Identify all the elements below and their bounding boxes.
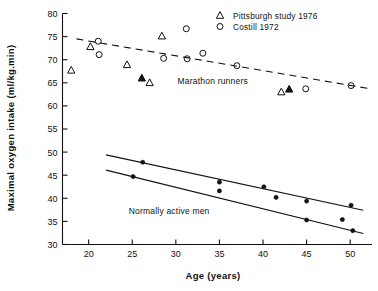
data-point xyxy=(161,55,167,61)
chart-figure: Maximal oxygen intake (ml/kg.min) 303540… xyxy=(0,0,378,291)
data-point xyxy=(217,189,221,193)
y-tick-label: 30 xyxy=(47,240,57,250)
y-tick-label: 45 xyxy=(47,171,57,181)
plot-annotation-label: Normally active men xyxy=(129,206,210,216)
data-point xyxy=(87,43,94,50)
y-tick-label: 75 xyxy=(47,32,57,42)
regression-lines xyxy=(76,39,367,234)
y-tick-label: 40 xyxy=(47,194,57,204)
data-point xyxy=(305,218,309,222)
data-point xyxy=(184,56,190,62)
plot-annotations: Marathon runnersNormally active men xyxy=(129,76,248,215)
x-tick-label: 25 xyxy=(127,249,137,259)
y-axis-ticks: 3035404550556065707580 xyxy=(47,9,67,250)
data-point xyxy=(274,195,278,199)
data-point xyxy=(96,52,102,58)
x-tick-label: 50 xyxy=(345,249,355,259)
data-point xyxy=(262,185,266,189)
plot-annotation-label: Marathon runners xyxy=(178,76,248,86)
y-tick-label: 50 xyxy=(47,148,57,158)
x-tick-label: 45 xyxy=(302,249,312,259)
legend-label: Costill 1972 xyxy=(233,22,279,32)
legend-label: Pittsburgh study 1976 xyxy=(233,11,318,21)
data-markers xyxy=(68,26,355,233)
data-point xyxy=(303,86,309,92)
data-point xyxy=(141,160,145,164)
data-point xyxy=(200,50,206,56)
y-tick-label: 55 xyxy=(47,124,57,134)
x-tick-label: 35 xyxy=(214,249,224,259)
data-point xyxy=(305,199,309,203)
x-tick-label: 40 xyxy=(258,249,268,259)
x-tick-label: 30 xyxy=(171,249,181,259)
x-axis-title: Age (years) xyxy=(185,270,240,281)
data-point xyxy=(123,61,130,68)
data-point xyxy=(95,38,101,44)
data-point xyxy=(68,66,75,73)
x-axis-ticks: 20253035404550 xyxy=(84,240,356,259)
data-point xyxy=(138,74,145,81)
y-tick-label: 70 xyxy=(47,55,57,65)
data-point xyxy=(183,26,189,32)
legend-marker xyxy=(217,24,223,30)
y-tick-label: 80 xyxy=(47,9,57,19)
y-tick-label: 35 xyxy=(47,217,57,227)
data-point xyxy=(158,32,165,39)
data-point xyxy=(217,180,221,184)
y-tick-label: 60 xyxy=(47,101,57,111)
data-point xyxy=(349,203,353,207)
data-point xyxy=(286,85,293,92)
chart-svg: Maximal oxygen intake (ml/kg.min) 303540… xyxy=(0,0,378,291)
chart-legend: Pittsburgh study 1976Costill 1972 xyxy=(216,11,317,32)
data-point xyxy=(146,79,153,86)
data-point xyxy=(278,88,285,95)
y-tick-label: 65 xyxy=(47,78,57,88)
legend-marker xyxy=(216,12,223,19)
data-point xyxy=(131,174,135,178)
y-axis-title: Maximal oxygen intake (ml/kg.min) xyxy=(5,45,16,212)
data-point xyxy=(351,229,355,233)
data-point xyxy=(340,217,344,221)
x-tick-label: 20 xyxy=(84,249,94,259)
